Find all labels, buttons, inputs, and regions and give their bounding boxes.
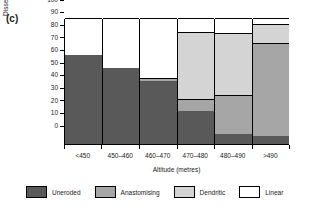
legend-item: Linear xyxy=(239,186,283,198)
bar-segment-linear xyxy=(253,18,290,24)
legend-item: Uneroded xyxy=(26,186,81,198)
x-axis-tick-mark xyxy=(64,145,65,149)
x-axis-ticks xyxy=(64,145,289,151)
stacked-bar-group xyxy=(65,19,289,144)
y-axis-tick-label: 90 xyxy=(51,9,58,16)
plot-area xyxy=(64,19,289,145)
x-axis-tick-mark xyxy=(177,145,178,149)
bar-segment-uneroded xyxy=(140,81,177,144)
legend-label: Linear xyxy=(265,189,283,196)
x-axis-tick-label: 450–460 xyxy=(102,152,140,159)
figure-panel-c: (c) 0102030405060708090100 Dissection (%… xyxy=(0,0,318,215)
bar-segment-linear xyxy=(178,18,215,32)
bar-column xyxy=(140,19,178,144)
y-axis-tick-mark xyxy=(60,0,64,1)
legend-label: Dendritic xyxy=(200,189,226,196)
y-axis-tick-label: 10 xyxy=(51,110,58,117)
x-axis-tick-label: 460–470 xyxy=(139,152,177,159)
bar-segment-linear xyxy=(103,18,140,68)
bar-segment-linear xyxy=(215,18,252,33)
bar-column xyxy=(103,19,141,144)
x-axis-tick-label: <450 xyxy=(64,152,102,159)
x-axis-tick-mark xyxy=(252,145,253,149)
y-axis-tick-label: 30 xyxy=(51,84,58,91)
legend-swatch xyxy=(26,186,47,198)
bar-segment-anastomising xyxy=(215,95,252,134)
x-axis-tick-mark xyxy=(214,145,215,149)
y-axis-title: Dissection (%) xyxy=(2,0,9,40)
legend-item: Dendritic xyxy=(174,186,226,198)
bar-segment-uneroded xyxy=(178,111,215,144)
bar-segment-anastomising xyxy=(253,43,290,136)
bar-column xyxy=(65,19,103,144)
y-axis-tick-label: 50 xyxy=(51,59,58,66)
x-axis-tick-label: >490 xyxy=(252,152,290,159)
chart-legend: UnerodedAnastomisingDendriticLinear xyxy=(26,186,298,198)
legend-swatch xyxy=(95,186,116,198)
legend-swatch xyxy=(174,186,195,198)
x-axis-tick-mark xyxy=(101,145,102,149)
bar-segment-uneroded xyxy=(103,68,140,144)
y-axis-tick-label: 20 xyxy=(51,97,58,104)
bar-segment-uneroded xyxy=(215,134,252,144)
y-axis-tick-label: 80 xyxy=(51,21,58,28)
bar-segment-uneroded xyxy=(253,136,290,144)
bar-segment-dendritic xyxy=(253,24,290,43)
bar-segment-dendritic xyxy=(215,33,252,95)
bar-segment-anastomising xyxy=(178,99,215,112)
y-axis-tick-label: 0 xyxy=(54,122,58,129)
bar-segment-anastomising xyxy=(140,78,177,81)
bar-column xyxy=(178,19,216,144)
x-axis-tick-label: 480–490 xyxy=(214,152,252,159)
bar-segment-linear xyxy=(140,18,177,78)
x-axis-labels: <450450–460460–470470–480480–490>490 xyxy=(64,152,289,159)
bar-column xyxy=(215,19,253,144)
y-axis-tick-label: 70 xyxy=(51,34,58,41)
y-axis-ticks: 0102030405060708090100 xyxy=(0,0,64,126)
y-axis-tick-label: 40 xyxy=(51,72,58,79)
x-axis-tick-mark xyxy=(289,145,290,149)
x-axis-tick-label: 470–480 xyxy=(177,152,215,159)
x-axis-tick-mark xyxy=(139,145,140,149)
y-axis-tick-label: 60 xyxy=(51,47,58,54)
y-axis-tick-mark xyxy=(60,12,64,13)
legend-label: Anastomising xyxy=(121,189,160,196)
legend-label: Uneroded xyxy=(52,189,81,196)
bar-column xyxy=(253,19,290,144)
legend-item: Anastomising xyxy=(95,186,160,198)
x-axis-title: Altitude (metres) xyxy=(64,166,289,173)
y-axis-tick-label: 100 xyxy=(47,0,58,3)
bar-segment-linear xyxy=(65,18,102,55)
legend-swatch xyxy=(239,186,260,198)
bar-segment-dendritic xyxy=(178,32,215,99)
bar-segment-uneroded xyxy=(65,55,102,144)
